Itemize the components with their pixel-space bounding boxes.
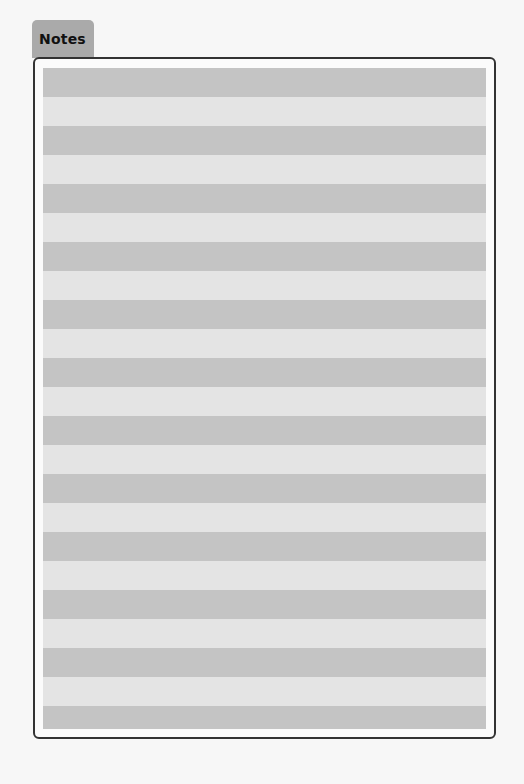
note-line[interactable] — [43, 416, 486, 445]
note-line[interactable] — [43, 184, 486, 213]
notes-lined-area[interactable] — [43, 68, 486, 729]
note-line[interactable] — [43, 532, 486, 561]
note-line[interactable] — [43, 155, 486, 184]
note-line[interactable] — [43, 242, 486, 271]
note-line[interactable] — [43, 300, 486, 329]
notes-tab-label: Notes — [39, 31, 86, 47]
notes-tab[interactable]: Notes — [32, 20, 94, 58]
note-line[interactable] — [43, 213, 486, 242]
note-line[interactable] — [43, 97, 486, 126]
note-line[interactable] — [43, 358, 486, 387]
note-line[interactable] — [43, 590, 486, 619]
note-line[interactable] — [43, 68, 486, 97]
note-line[interactable] — [43, 474, 486, 503]
note-line[interactable] — [43, 561, 486, 590]
note-line[interactable] — [43, 648, 486, 677]
note-line[interactable] — [43, 503, 486, 532]
note-line[interactable] — [43, 619, 486, 648]
note-line[interactable] — [43, 706, 486, 729]
note-line[interactable] — [43, 329, 486, 358]
note-line[interactable] — [43, 677, 486, 706]
note-line[interactable] — [43, 387, 486, 416]
note-line[interactable] — [43, 271, 486, 300]
note-line[interactable] — [43, 126, 486, 155]
note-line[interactable] — [43, 445, 486, 474]
